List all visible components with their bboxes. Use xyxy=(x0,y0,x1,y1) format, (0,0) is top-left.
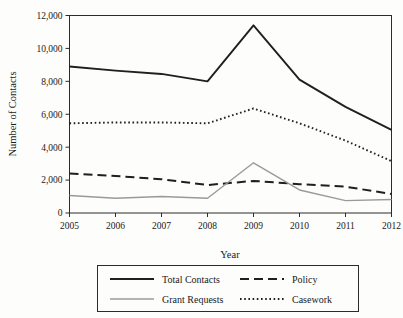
x-tick-label: 2012 xyxy=(382,221,401,231)
legend: Total ContactsPolicyGrant RequestsCasewo… xyxy=(98,266,359,312)
y-tick-label: 8,000 xyxy=(41,77,63,87)
y-axis-ticks: 02,0004,0006,0008,00010,00012,000 xyxy=(36,11,69,219)
x-tick-label: 2011 xyxy=(336,221,355,231)
x-tick-label: 2005 xyxy=(60,221,79,231)
data-series-group xyxy=(70,25,392,200)
x-tick-label: 2010 xyxy=(290,221,309,231)
y-tick-label: 10,000 xyxy=(36,44,62,54)
series-line-policy xyxy=(70,174,392,195)
x-axis-ticks: 20052006200720082009201020112012 xyxy=(60,213,401,231)
y-tick-label: 2,000 xyxy=(41,175,63,185)
x-tick-label: 2009 xyxy=(244,221,263,231)
legend-label-grant-requests: Grant Requests xyxy=(162,294,223,305)
y-tick-label: 4,000 xyxy=(41,143,63,153)
line-chart-figure: 02,0004,0006,0008,00010,00012,000 200520… xyxy=(0,0,403,318)
legend-label-total-contacts: Total Contacts xyxy=(162,274,220,285)
legend-label-casework: Casework xyxy=(292,294,332,305)
y-tick-label: 6,000 xyxy=(41,110,63,120)
legend-label-policy: Policy xyxy=(292,274,318,285)
y-tick-label: 0 xyxy=(58,208,63,218)
series-line-total-contacts xyxy=(70,25,392,130)
y-axis-title: Number of Contacts xyxy=(7,71,18,156)
y-tick-label: 12,000 xyxy=(36,11,62,21)
x-tick-label: 2007 xyxy=(152,221,171,231)
chart-svg: 02,0004,0006,0008,00010,00012,000 200520… xyxy=(0,0,403,318)
x-tick-label: 2008 xyxy=(198,221,217,231)
x-axis-title: Year xyxy=(220,249,240,260)
series-line-casework xyxy=(70,108,392,161)
series-line-grant-requests xyxy=(70,163,392,201)
x-tick-label: 2006 xyxy=(106,221,125,231)
